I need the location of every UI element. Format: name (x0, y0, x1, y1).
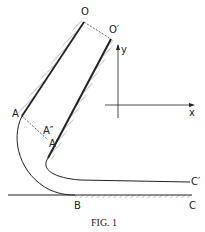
dashed-line-o-o-prime (84, 22, 111, 39)
inner-curve-a-prime-c-prime (46, 158, 190, 182)
outer-wall (18, 19, 84, 116)
ground-hatching (75, 195, 191, 198)
label-c: C (189, 200, 196, 211)
figure-caption: FIG. 1 (91, 217, 117, 228)
label-o-prime: O′ (109, 24, 120, 35)
label-a-double-prime: A″ (43, 125, 54, 136)
label-o: O (81, 6, 89, 17)
label-a-prime: A′ (49, 138, 59, 149)
label-x-axis: x (189, 107, 195, 118)
label-a: A (12, 108, 19, 119)
label-c-prime: C′ (191, 176, 201, 187)
coordinate-axes (105, 44, 195, 118)
label-b: B (74, 200, 81, 211)
label-y-axis: y (121, 44, 127, 55)
figure-canvas: O O′ y x A A″ A′ C′ B C FIG. 1 (0, 0, 205, 232)
